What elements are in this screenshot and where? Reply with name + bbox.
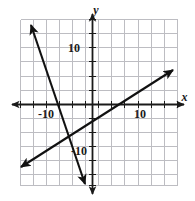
x-tick-label-positive-ten: 10 (134, 107, 146, 121)
x-axis-label: x (181, 90, 188, 104)
y-axis-label: y (91, 3, 99, 17)
y-tick-label-negative-ten: -10 (71, 144, 87, 158)
y-tick-label-positive-ten: 10 (68, 41, 80, 55)
coordinate-plane-figure: x y -10 10 10 -10 (0, 0, 195, 201)
x-tick-label-negative-ten: -10 (38, 107, 54, 121)
graph-canvas: x y -10 10 10 -10 (0, 0, 195, 201)
